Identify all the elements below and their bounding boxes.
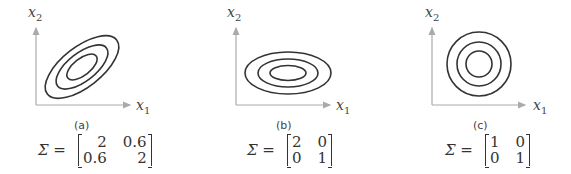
covariance-matrix-a: Σ = 20.6 0.62 <box>38 134 152 166</box>
covariance-matrix-b: Σ = 20 01 <box>247 134 332 166</box>
x-axis-label-a: x1 <box>136 97 150 116</box>
covariance-matrix-c: Σ = 10 01 <box>445 134 530 166</box>
caption-b: (b) <box>276 119 292 132</box>
x-axis-label-c: x1 <box>533 97 547 116</box>
panel-b-contours <box>245 52 331 94</box>
y-axis-label-c: x2 <box>425 4 439 23</box>
x-axis-label-b: x1 <box>336 97 350 116</box>
caption-a: (a) <box>74 119 89 132</box>
y-axis-label-a: x2 <box>28 4 42 23</box>
y-axis-label-b: x2 <box>227 4 241 23</box>
caption-c: (c) <box>473 119 488 132</box>
panel-a-contours <box>35 24 129 110</box>
panel-c-contours <box>447 32 511 96</box>
